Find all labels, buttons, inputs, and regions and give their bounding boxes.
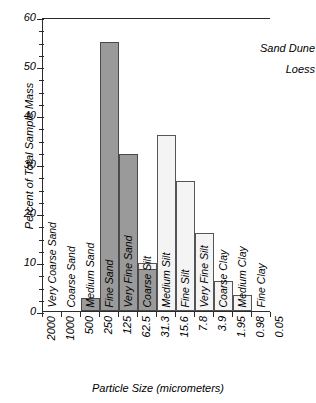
category-label: Very Coarse Sand [46, 222, 57, 307]
y-tick-mark-major [37, 117, 44, 118]
plot-area: Very Coarse SandCoarse SandMedium SandFi… [42, 18, 270, 312]
y-tick-mark-minor [39, 93, 44, 94]
x-tick-mark [194, 312, 195, 317]
x-tick-mark [118, 312, 119, 317]
y-tick-label: 40 [10, 110, 36, 121]
x-axis-title: Particle Size (micrometers) [0, 382, 316, 394]
y-tick-mark-minor [39, 56, 44, 57]
y-tick-mark-minor [39, 80, 44, 81]
y-axis-tick-labels: 0102030405060 [6, 0, 36, 403]
x-tick-label: 31.3 [160, 316, 171, 337]
y-tick-mark-minor [39, 191, 44, 192]
x-tick-mark [156, 312, 157, 317]
category-label: Fine Clay [255, 263, 266, 307]
category-label: Coarse Sand [65, 246, 76, 307]
y-tick-mark-minor [39, 301, 44, 302]
chart-figure: Percent of Total Sample Mass 01020304050… [0, 0, 316, 403]
category-label: Fine Silt [179, 269, 190, 307]
category-label: Medium Clay [236, 246, 247, 307]
y-tick-mark-major [37, 215, 44, 216]
legend-item: Sand Dune [239, 41, 316, 54]
y-tick-mark-minor [39, 142, 44, 143]
x-tick-label: 7.8 [198, 316, 209, 331]
y-tick-mark-minor [39, 203, 44, 204]
y-tick-mark-minor [39, 129, 44, 130]
x-tick-mark [42, 312, 43, 317]
x-tick-mark [213, 312, 214, 317]
y-tick-label: 60 [10, 12, 36, 23]
x-tick-label: 3.9 [217, 316, 228, 331]
x-tick-label: 0.05 [274, 316, 285, 337]
category-label: Very Fine Silt [198, 245, 209, 307]
x-tick-mark [137, 312, 138, 317]
y-tick-label: 30 [10, 159, 36, 170]
x-tick-label: 1000 [65, 316, 76, 340]
x-tick-label: 62.5 [141, 316, 152, 337]
x-tick-mark [270, 312, 271, 317]
y-tick-label: 10 [10, 257, 36, 268]
y-tick-mark-major [37, 19, 44, 20]
y-tick-mark-minor [39, 276, 44, 277]
y-tick-mark-minor [39, 240, 44, 241]
x-tick-label: 500 [84, 316, 95, 334]
x-tick-label: 2000 [46, 316, 57, 340]
x-tick-mark [232, 312, 233, 317]
x-tick-mark [99, 312, 100, 317]
y-tick-label: 0 [10, 306, 36, 317]
x-tick-mark [251, 312, 252, 317]
x-tick-mark [80, 312, 81, 317]
y-tick-mark-minor [39, 154, 44, 155]
y-tick-label: 50 [10, 61, 36, 72]
y-tick-mark-minor [39, 44, 44, 45]
x-tick-mark [61, 312, 62, 317]
category-label: Fine Sand [103, 259, 114, 307]
x-tick-label: 125 [122, 316, 133, 334]
chart-legend: Sand Dune Loess [239, 41, 316, 83]
y-tick-mark-minor [39, 289, 44, 290]
category-label: Medium Sand [84, 242, 95, 307]
category-label: Very Fine Sand [122, 235, 133, 307]
legend-label: Loess [286, 63, 315, 75]
legend-label: Sand Dune [260, 42, 315, 54]
x-tick-label: 1.95 [236, 316, 247, 337]
category-label: Medium Silt [160, 252, 171, 307]
y-tick-label: 20 [10, 208, 36, 219]
y-tick-mark-minor [39, 105, 44, 106]
y-tick-mark-minor [39, 178, 44, 179]
y-tick-mark-major [37, 166, 44, 167]
category-label: Coarse Silt [141, 256, 152, 307]
legend-item: Loess [239, 62, 316, 75]
category-label: Coarse Clay [217, 249, 228, 307]
y-tick-mark-minor [39, 31, 44, 32]
x-tick-label: 250 [103, 316, 114, 334]
y-tick-mark-minor [39, 227, 44, 228]
x-tick-label: 0.98 [255, 316, 266, 337]
y-tick-mark-minor [39, 252, 44, 253]
plot-inner: Very Coarse SandCoarse SandMedium SandFi… [43, 19, 270, 311]
y-tick-mark-major [37, 264, 44, 265]
x-tick-mark [175, 312, 176, 317]
y-tick-mark-major [37, 68, 44, 69]
x-tick-label: 15.6 [179, 316, 190, 337]
